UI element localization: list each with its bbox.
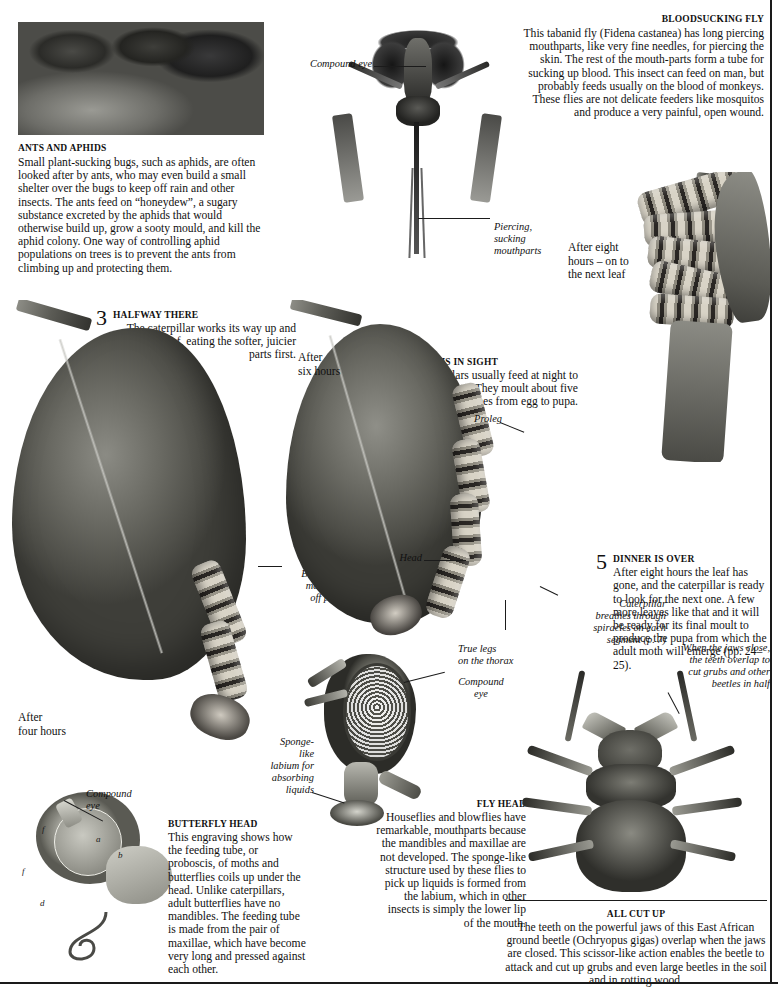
proboscis-coil-icon	[60, 904, 130, 964]
butterfly-letter-a: a	[96, 834, 101, 844]
page-right-rule	[770, 0, 772, 984]
true-legs-leader	[505, 600, 506, 630]
flyhead-compound-eye-label: Compound eye	[446, 664, 516, 700]
after-four-hours-label: After four hours	[18, 698, 108, 738]
fly-head-heading: FLY HEAD	[376, 798, 526, 810]
ground-beetle-photo	[520, 660, 778, 898]
black-yellow-markings-leader	[258, 566, 282, 567]
butterfly-head-heading: BUTTERFLY HEAD	[168, 818, 308, 830]
bloodsucking-fly-block: BLOODSUCKING FLY This tabanid fly (Fiden…	[520, 13, 764, 119]
divider-rule-bottom-right	[505, 900, 767, 901]
sponge-labium-label: Sponge- like labium for absorbing liquid…	[256, 724, 314, 796]
butterfly-head-body: This engraving shows how the feeding tub…	[168, 831, 308, 976]
tabanid-fly-photo	[330, 18, 505, 278]
step-5-heading: DINNER IS OVER	[613, 553, 772, 565]
after-eight-hours-label: After eight hours – on to the next leaf	[568, 228, 648, 282]
fly-compound-eye-label: Compound eye	[292, 58, 372, 70]
ants-and-aphids-heading: ANTS AND APHIDS	[18, 142, 270, 154]
all-cut-up-block: ALL CUT UP The teeth on the powerful jaw…	[505, 908, 767, 987]
page-canvas: ANTS AND APHIDS Small plant-sucking bugs…	[0, 0, 778, 995]
all-cut-up-heading: ALL CUT UP	[505, 908, 767, 920]
all-cut-up-body: The teeth on the powerful jaws of this E…	[505, 921, 767, 987]
head-label: Head	[368, 552, 422, 564]
bloodsucking-fly-heading: BLOODSUCKING FLY	[520, 13, 764, 25]
butterfly-compound-eye-label: Compound eye	[86, 776, 166, 812]
ants-and-aphids-photo	[18, 22, 264, 135]
butterfly-head-block: BUTTERFLY HEAD This engraving shows how …	[168, 818, 308, 976]
butterfly-letter-f: f	[22, 866, 25, 876]
butterfly-letter-e: f	[42, 824, 45, 834]
head-leader	[424, 560, 466, 561]
butterfly-letter-b: b	[118, 850, 123, 860]
proleg-label: Proleg	[446, 413, 502, 425]
fly-piercing-mouthparts-leader	[418, 218, 490, 219]
jaws-close-label: When the jaws close, the teeth overlap t…	[640, 630, 770, 690]
ants-and-aphids-block: ANTS AND APHIDS Small plant-sucking bugs…	[18, 142, 270, 275]
butterfly-head-engraving: f a b f d	[20, 786, 180, 966]
fly-head-block: FLY HEAD Houseflies and blowflies have r…	[376, 798, 526, 930]
fly-head-body: Houseflies and blowflies have remarkable…	[376, 811, 526, 930]
bloodsucking-fly-body: This tabanid fly (Fidena castanea) has l…	[520, 27, 764, 119]
caterpillar-next-leaf-photo	[620, 172, 770, 462]
leaf-halfway-photo	[8, 300, 276, 740]
fly-compound-eye-leader	[374, 66, 426, 67]
butterfly-letter-d: d	[40, 898, 45, 908]
after-six-hours-label: After six hours	[298, 338, 358, 378]
step-5-number: 5	[596, 551, 607, 573]
page-bottom-rule	[0, 982, 778, 984]
ants-and-aphids-body: Small plant-sucking bugs, such as aphids…	[18, 156, 270, 275]
